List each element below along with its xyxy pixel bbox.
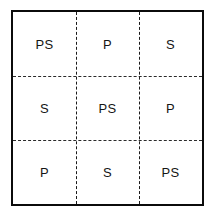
grid-cell-r1c2: P — [76, 12, 139, 76]
grid-cell-r2c1: S — [13, 76, 76, 140]
grid-cell-r3c3: PS — [139, 140, 202, 204]
grid-cell-r2c2: PS — [76, 76, 139, 140]
cell-label: P — [166, 102, 175, 115]
cell-label: PS — [99, 102, 117, 115]
cell-label: PS — [36, 38, 54, 51]
cell-label: P — [40, 166, 49, 179]
grid-frame: PS P S S PS P P S — [11, 10, 204, 206]
cell-label: S — [40, 102, 49, 115]
grid-cell-r1c1: PS — [13, 12, 76, 76]
cell-label: PS — [162, 166, 180, 179]
grid-cell-r1c3: S — [139, 12, 202, 76]
cell-label: S — [103, 166, 112, 179]
cell-label: P — [103, 38, 112, 51]
grid-cells: PS P S S PS P P S — [13, 12, 202, 204]
grid-cell-r3c1: P — [13, 140, 76, 204]
cell-label: S — [166, 38, 175, 51]
grid-cell-r2c3: P — [139, 76, 202, 140]
grid-cell-r3c2: S — [76, 140, 139, 204]
figure-root: PS P S S PS P P S — [0, 0, 215, 217]
